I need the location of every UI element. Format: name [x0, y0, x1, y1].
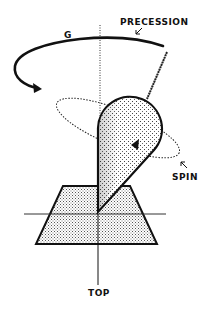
spin-axis	[147, 52, 167, 99]
gravity-label: G	[64, 30, 72, 40]
base-plane	[36, 186, 157, 244]
spin-label: SPIN	[172, 172, 198, 182]
spin-pointer-icon	[181, 162, 187, 168]
precession-arc	[15, 38, 163, 88]
gyroscope-precession-diagram: PRECESSION G SPIN TOP	[0, 0, 212, 312]
precession-arrow-icon	[33, 83, 42, 93]
precession-label: PRECESSION	[120, 17, 189, 27]
top-label: TOP	[88, 288, 110, 298]
precession-pointer-icon	[136, 28, 142, 34]
